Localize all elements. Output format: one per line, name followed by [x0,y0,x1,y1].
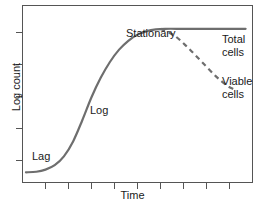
annotation-stationary: Stationary [126,27,176,39]
legend-viable-cells: Viable cells [222,75,264,101]
x-axis-ticks [46,182,230,189]
y-axis-label-wrapper: Log count [6,57,24,117]
legend-viable-cells-line1: Viable [222,75,264,88]
y-axis-label: Log count [10,63,22,111]
annotation-lag: Lag [32,150,50,162]
legend-total-cells-line1: Total [222,33,264,46]
legend-total-cells-line2: cells [222,46,264,59]
total-cells-curve [26,29,246,173]
annotation-log: Log [90,104,108,116]
legend-total-cells: Total cells [222,33,264,59]
legend-viable-cells-line2: cells [222,88,264,101]
x-axis-label: Time [0,189,265,201]
growth-curve-figure: Log count Time Lag Log Stationary Total … [0,0,265,207]
